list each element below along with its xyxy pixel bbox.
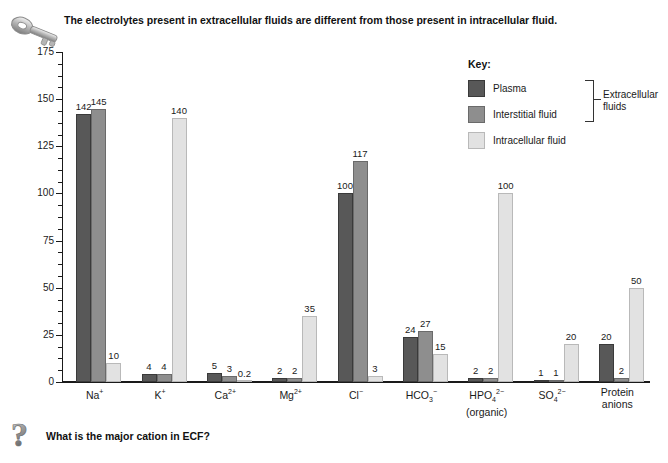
bar[interactable]	[157, 374, 172, 382]
bar-value-label: 100	[491, 180, 520, 191]
legend: Key: Plasma Interstitial fluid Intracell…	[468, 58, 668, 150]
bracket-label-line2: fluids	[603, 101, 658, 113]
bar[interactable]	[76, 114, 91, 382]
caption-row: The electrolytes present in extracellula…	[0, 8, 668, 52]
bar[interactable]	[353, 161, 368, 382]
y-tick-major	[56, 99, 62, 100]
bar[interactable]	[534, 380, 549, 382]
bar[interactable]	[418, 331, 433, 382]
bar[interactable]	[338, 193, 353, 382]
y-tick-major	[56, 288, 62, 289]
y-tick-label: 125	[14, 140, 54, 151]
y-tick-minor	[58, 158, 62, 159]
svg-text:?: ?	[11, 418, 28, 453]
bar[interactable]	[629, 288, 644, 382]
bar[interactable]	[237, 380, 252, 382]
bar[interactable]	[599, 344, 614, 382]
y-tick-major	[56, 52, 62, 53]
bar[interactable]	[433, 354, 448, 382]
y-tick-minor	[58, 135, 62, 136]
y-tick-minor	[58, 229, 62, 230]
y-tick-minor	[58, 311, 62, 312]
question-mark-icon: ?	[8, 418, 42, 458]
legend-swatch-interstitial-fluid	[468, 106, 485, 123]
x-axis-label: SO42−	[519, 386, 584, 406]
extracellular-bracket-label: Extracellular fluids	[603, 89, 658, 113]
bar[interactable]	[302, 316, 317, 382]
question-text: What is the major cation in ECF?	[46, 430, 210, 442]
legend-swatch-plasma	[468, 80, 485, 97]
legend-title: Key:	[468, 58, 491, 70]
bar-group: 2235	[272, 52, 317, 382]
y-axis-title-wrap: mEq/liter	[14, 170, 28, 250]
bar-value-label: 140	[165, 105, 194, 116]
bar-value-label: 145	[84, 96, 113, 107]
x-axis-label: Na+	[62, 386, 127, 401]
bar[interactable]	[614, 378, 629, 382]
y-tick-minor	[58, 370, 62, 371]
chart-page: The electrolytes present in extracellula…	[0, 0, 668, 463]
y-axis-line	[62, 52, 63, 382]
bar[interactable]	[106, 363, 121, 382]
bar-group: 530.2	[207, 52, 252, 382]
bar-value-label: 50	[622, 275, 651, 286]
legend-label-intracellular-fluid: Intracellular fluid	[493, 135, 566, 146]
bar-group: 14214510	[76, 52, 121, 382]
y-tick-major	[56, 193, 62, 194]
bar-group: 242715	[403, 52, 448, 382]
y-tick-minor	[58, 123, 62, 124]
y-tick-label: 25	[14, 329, 54, 340]
x-axis-label: Proteinanions	[585, 386, 650, 410]
bar-value-label: 117	[346, 148, 375, 159]
y-tick-label: 175	[14, 46, 54, 57]
y-tick-major	[56, 241, 62, 242]
x-axis-labels: Na+K+Ca2+Mg2+Cl−HCO3−HPO42−(organic)SO42…	[62, 386, 650, 420]
y-tick-minor	[58, 76, 62, 77]
x-axis-label: Cl−	[323, 386, 388, 401]
bar-value-label: 3	[361, 363, 390, 374]
bar[interactable]	[287, 378, 302, 382]
y-tick-minor	[58, 252, 62, 253]
bar[interactable]	[368, 376, 383, 382]
bracket-label-line1: Extracellular	[603, 89, 658, 101]
extracellular-bracket-stem	[593, 99, 601, 100]
x-axis-label: HCO3−	[389, 386, 454, 406]
y-tick-minor	[58, 182, 62, 183]
bar[interactable]	[468, 378, 483, 382]
bar[interactable]	[403, 337, 418, 382]
caption-text: The electrolytes present in extracellula…	[64, 14, 660, 27]
y-tick-major	[56, 146, 62, 147]
x-axis-label: Ca2+	[193, 386, 258, 401]
bar[interactable]	[549, 380, 564, 382]
bar[interactable]	[498, 193, 513, 382]
bar[interactable]	[172, 118, 187, 382]
y-tick-minor	[58, 64, 62, 65]
bar-value-label: 0.2	[230, 368, 259, 379]
bar-value-label: 10	[99, 350, 128, 361]
bar-group: 44140	[142, 52, 187, 382]
bar[interactable]	[91, 109, 106, 382]
y-tick-minor	[58, 264, 62, 265]
bar-value-label: 20	[592, 331, 621, 342]
bar[interactable]	[483, 378, 498, 382]
legend-label-interstitial-fluid: Interstitial fluid	[493, 109, 557, 120]
y-tick-label: 0	[14, 376, 54, 387]
y-tick-minor	[58, 323, 62, 324]
extracellular-bracket	[585, 80, 594, 122]
question-row: ? What is the major cation in ECF?	[0, 418, 668, 460]
y-tick-minor	[58, 217, 62, 218]
bar-value-label: 20	[557, 331, 586, 342]
y-tick-minor	[58, 276, 62, 277]
y-tick-label: 150	[14, 93, 54, 104]
bar[interactable]	[272, 378, 287, 382]
bar-value-label: 27	[411, 318, 440, 329]
bar[interactable]	[142, 374, 157, 382]
y-tick-minor	[58, 300, 62, 301]
y-tick-minor	[58, 170, 62, 171]
y-tick-minor	[58, 205, 62, 206]
y-tick-minor	[58, 358, 62, 359]
y-tick-minor	[58, 87, 62, 88]
legend-swatch-intracellular-fluid	[468, 132, 485, 149]
x-axis-label: K+	[127, 386, 192, 401]
bar[interactable]	[564, 344, 579, 382]
